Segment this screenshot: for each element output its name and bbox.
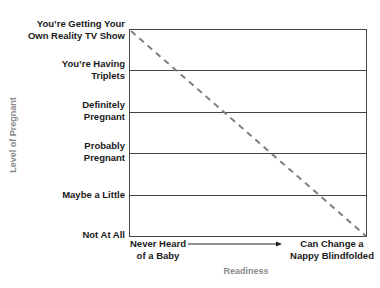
ytick-maybe: Maybe a Little bbox=[62, 189, 125, 201]
ytick-line: Triplets bbox=[62, 70, 125, 82]
xtick-never-heard: Never Heard of a Baby bbox=[128, 238, 188, 262]
ytick-not-at-all: Not At All bbox=[82, 229, 125, 241]
ytick-triplets: You’re Having Triplets bbox=[62, 58, 125, 82]
y-axis-label: Level of Pregnant bbox=[8, 97, 18, 173]
ytick-line: You’re Having bbox=[62, 58, 125, 70]
ytick-reality-tv: You’re Getting Your Own Reality TV Show bbox=[28, 18, 125, 42]
xtick-line: Can Change a bbox=[285, 238, 379, 250]
xtick-line: of a Baby bbox=[128, 250, 188, 262]
ytick-line: You’re Getting Your bbox=[28, 18, 125, 30]
xtick-line: Never Heard bbox=[128, 238, 188, 250]
ytick-line: Definitely bbox=[82, 99, 125, 111]
arrowhead-icon bbox=[276, 242, 282, 247]
xtick-line: Nappy Blindfolded bbox=[285, 250, 379, 262]
trend-line bbox=[131, 31, 366, 236]
ytick-probably: Probably Pregnant bbox=[84, 140, 125, 164]
ytick-line: Pregnant bbox=[84, 152, 125, 164]
ytick-line: Pregnant bbox=[82, 111, 125, 123]
ytick-line: Probably bbox=[84, 140, 125, 152]
ytick-line: Own Reality TV Show bbox=[28, 30, 125, 42]
ytick-definitely: Definitely Pregnant bbox=[82, 99, 125, 123]
x-axis-label: Readiness bbox=[223, 266, 268, 276]
xtick-can-change: Can Change a Nappy Blindfolded bbox=[285, 238, 379, 262]
